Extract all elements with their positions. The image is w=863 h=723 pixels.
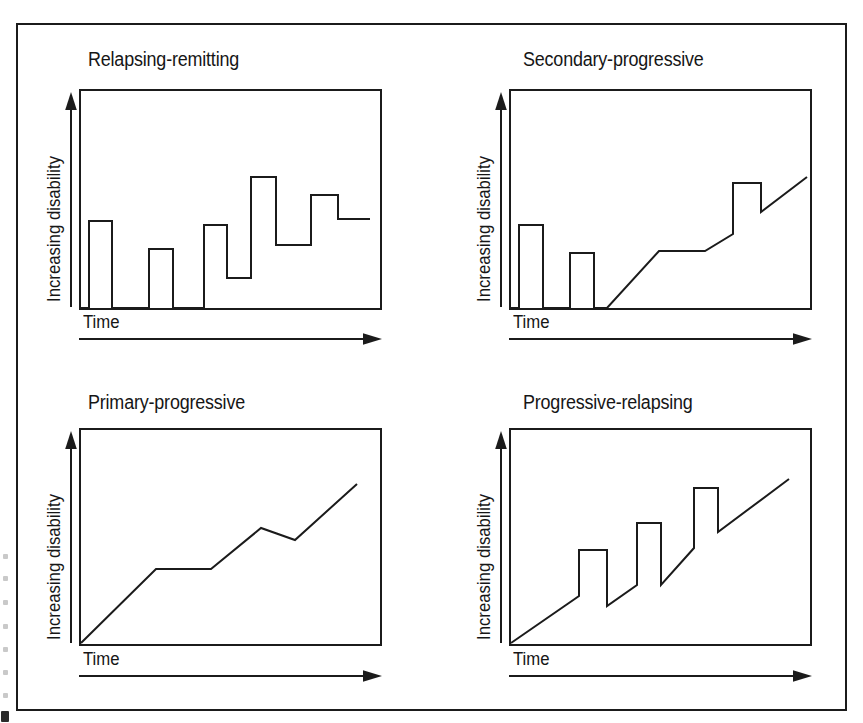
x-axis-arrow-primary-progressive xyxy=(79,669,384,685)
x-axis-label-progressive-relapsing: Time xyxy=(513,649,550,670)
panel-progressive-relapsing: Progressive-relapsing Increasing disabil… xyxy=(430,343,863,713)
panel-primary-progressive: Primary-progressive Increasing disabilit… xyxy=(0,343,430,713)
panel-title-progressive-relapsing: Progressive-relapsing xyxy=(523,391,693,414)
plot-relapsing-remitting xyxy=(79,89,382,310)
plot-secondary-progressive xyxy=(509,89,812,310)
x-axis-arrow-progressive-relapsing xyxy=(509,669,814,685)
panel-secondary-progressive: Secondary-progressive Increasing disabil… xyxy=(430,0,863,360)
plot-frame xyxy=(80,90,381,309)
x-axis-label-secondary-progressive: Time xyxy=(513,312,550,333)
panel-relapsing-remitting: Relapsing-remitting Increasing disabilit… xyxy=(0,0,430,360)
figure-root: Relapsing-remitting Increasing disabilit… xyxy=(0,0,863,723)
x-axis-label-relapsing-remitting: Time xyxy=(83,312,120,333)
panel-title-relapsing-remitting: Relapsing-remitting xyxy=(88,48,239,71)
panel-title-primary-progressive: Primary-progressive xyxy=(88,391,245,414)
plot-frame xyxy=(510,90,811,309)
plot-primary-progressive xyxy=(79,428,382,646)
plot-frame xyxy=(80,429,381,645)
plot-progressive-relapsing xyxy=(509,428,812,646)
x-axis-label-primary-progressive: Time xyxy=(83,649,120,670)
panel-title-secondary-progressive: Secondary-progressive xyxy=(523,48,704,71)
